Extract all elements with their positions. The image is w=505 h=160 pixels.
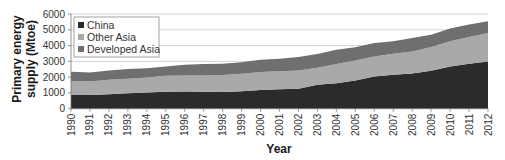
y-tick-label: 4000 xyxy=(43,40,66,51)
x-axis-title: Year xyxy=(266,142,292,156)
x-tick-label: 2010 xyxy=(445,113,456,136)
legend-swatch-developed-asia xyxy=(78,46,84,52)
x-tick-label: 1992 xyxy=(103,113,114,136)
y-tick-label: 2000 xyxy=(43,72,66,83)
x-tick-label: 1993 xyxy=(122,113,133,136)
x-tick-label: 1996 xyxy=(179,113,190,136)
y-axis-title: Primary energy supply (Mtoe) xyxy=(10,15,38,103)
legend-swatch-china xyxy=(78,22,84,28)
x-tick-label: 1991 xyxy=(84,113,95,136)
legend-label-china: China xyxy=(87,19,115,31)
x-tick-label: 2008 xyxy=(407,113,418,136)
y-axis-title-line1: Primary energy xyxy=(10,15,24,103)
x-tick-label: 2009 xyxy=(426,113,437,136)
y-tick-label: 6000 xyxy=(43,9,66,20)
x-tick-label: 1999 xyxy=(236,113,247,136)
x-tick-label: 1990 xyxy=(66,113,77,136)
x-tick-label: 1995 xyxy=(160,113,171,136)
x-tick-label: 2007 xyxy=(388,113,399,136)
x-tick-label: 2003 xyxy=(312,113,323,136)
y-tick-label: 3000 xyxy=(43,56,66,67)
x-tick-label: 1998 xyxy=(217,113,228,136)
x-tick-label: 1994 xyxy=(141,113,152,136)
y-axis-title-line2: supply (Mtoe) xyxy=(24,20,38,98)
y-tick-label: 1000 xyxy=(43,87,66,98)
x-tick-label: 2011 xyxy=(464,113,475,135)
x-tick-label: 2004 xyxy=(331,113,342,136)
y-tick-label: 5000 xyxy=(43,24,66,35)
y-tick-label: 0 xyxy=(59,103,65,114)
legend: China Other Asia Developed Asia xyxy=(74,17,160,57)
x-tick-label: 2012 xyxy=(483,113,494,136)
y-axis-ticks: 0100020003000400050006000 xyxy=(43,9,71,115)
stacked-area-chart: 0100020003000400050006000 19901991199219… xyxy=(0,0,505,160)
legend-item-other-asia: Other Asia xyxy=(78,31,136,43)
legend-label-developed-asia: Developed Asia xyxy=(87,43,160,55)
x-tick-label: 2002 xyxy=(293,113,304,136)
legend-label-other-asia: Other Asia xyxy=(87,31,136,43)
x-tick-label: 2006 xyxy=(369,113,380,136)
x-tick-label: 2000 xyxy=(255,113,266,136)
x-tick-label: 2001 xyxy=(274,113,285,136)
legend-swatch-other-asia xyxy=(78,34,84,40)
x-axis-ticks: 1990199119921993199419951996199719981999… xyxy=(66,109,494,136)
x-tick-label: 1997 xyxy=(198,113,209,136)
x-tick-label: 2005 xyxy=(350,113,361,136)
legend-item-developed-asia: Developed Asia xyxy=(78,43,160,55)
